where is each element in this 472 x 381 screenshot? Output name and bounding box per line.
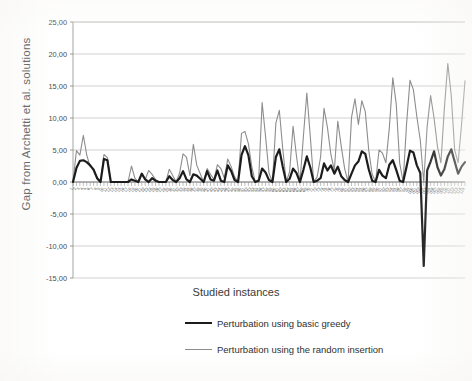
y-tick-label: -15,00 (46, 274, 67, 283)
y-tick-label: 20,00 (49, 50, 68, 59)
legend-line-swatch-dark (185, 322, 212, 324)
legend-label-random-insertion: Perturbation using the random insertion (217, 344, 383, 355)
legend-item-random-insertion: Perturbation using the random insertion (0, 336, 472, 362)
y-tick-label: -10,00 (46, 242, 67, 251)
y-tick-label: 25,00 (49, 18, 68, 27)
y-tick-label: -5,00 (50, 210, 67, 219)
y-tick-label: 0,00 (53, 178, 67, 187)
legend-label-basic-greedy: Perturbation using basic greedy (217, 318, 351, 329)
chart-figure: Gap from Archetti et al. solutions 25,00… (0, 0, 472, 381)
legend-item-basic-greedy: Perturbation using basic greedy (0, 310, 472, 336)
legend-line-swatch-gray (185, 349, 212, 350)
y-tick-label: 15,00 (49, 82, 68, 91)
chart-legend: Perturbation using basic greedy Perturba… (0, 310, 472, 362)
y-tick-label: 10,00 (49, 114, 68, 123)
x-axis-title: Studied instances (0, 286, 472, 298)
plot-area: 25,0020,0015,0010,005,000,00-5,00-10,00-… (0, 0, 472, 290)
y-tick-label: 5,00 (53, 146, 67, 155)
